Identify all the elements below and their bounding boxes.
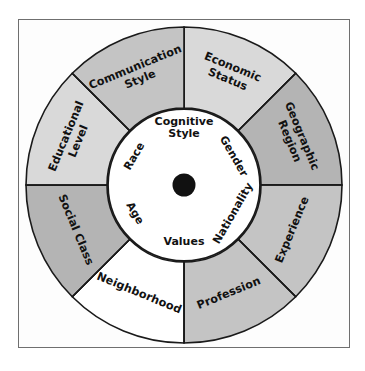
hub-dot xyxy=(173,174,196,197)
inner-dimension-label[interactable]: Values xyxy=(164,235,205,248)
diversity-wheel: EconomicStatusGeographicRegionExperience… xyxy=(0,0,365,371)
diagram-canvas: EconomicStatusGeographicRegionExperience… xyxy=(0,0,365,371)
